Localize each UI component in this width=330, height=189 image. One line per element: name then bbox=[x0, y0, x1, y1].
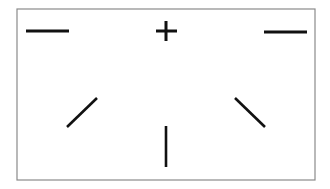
target-line-right-diagonal bbox=[235, 98, 265, 127]
target-line-left-diagonal bbox=[67, 98, 97, 127]
target-lines bbox=[26, 31, 307, 167]
stimulus-diagram bbox=[0, 0, 330, 189]
plus-icon bbox=[156, 21, 177, 41]
